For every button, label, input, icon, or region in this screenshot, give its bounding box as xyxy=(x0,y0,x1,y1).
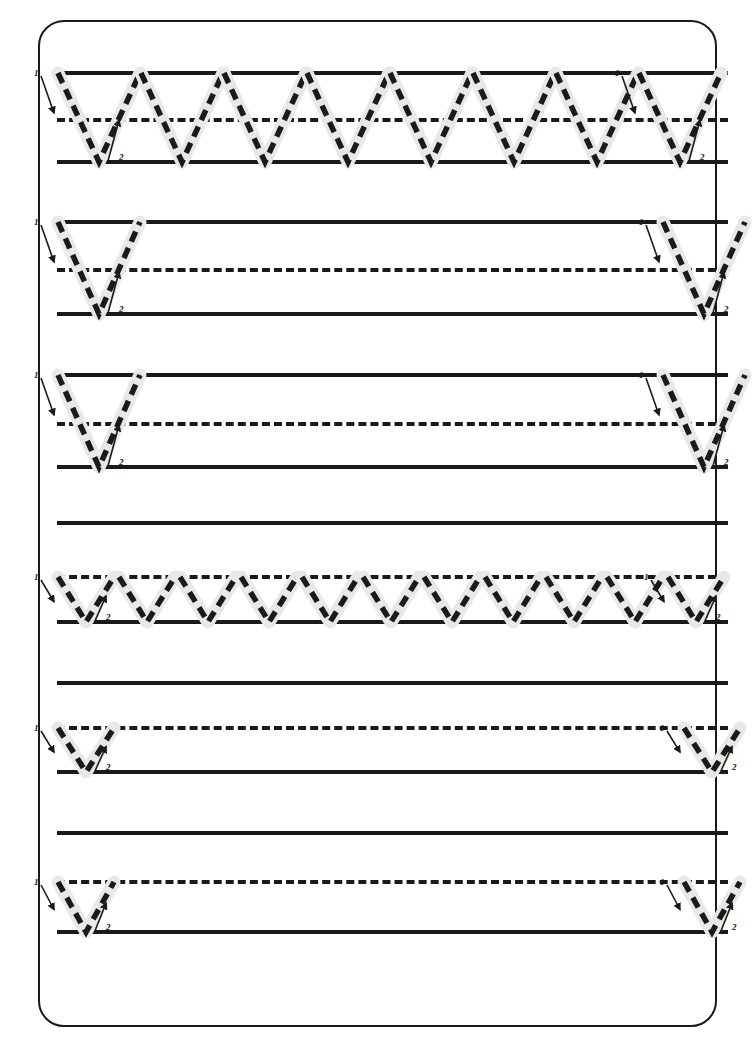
stroke-2-label: 2 xyxy=(716,613,721,622)
letter-highlight-band xyxy=(663,375,745,467)
stroke-1-label: 1 xyxy=(639,218,644,227)
stroke-1-arrow xyxy=(667,731,680,752)
letter-glyph-guided: 12 xyxy=(613,57,747,178)
letter-v-strokes xyxy=(32,359,166,483)
letter-v-strokes xyxy=(32,712,140,788)
stroke-2-label: 2 xyxy=(119,305,124,314)
section-3-separator-line xyxy=(57,521,728,525)
letter-glyph-guided: 12 xyxy=(642,561,750,638)
stroke-1-arrow xyxy=(646,378,659,415)
stroke-1-label: 1 xyxy=(34,878,39,887)
letter-glyph-guided: 12 xyxy=(32,866,140,948)
stroke-1-arrow xyxy=(41,76,54,113)
stroke-1-label: 1 xyxy=(615,69,620,78)
stroke-1-label: 1 xyxy=(644,573,649,582)
stroke-2-label: 2 xyxy=(732,763,737,772)
letter-highlight-band xyxy=(58,375,140,467)
section-6-base-line xyxy=(57,930,728,934)
letter-v-strokes xyxy=(642,561,750,638)
letter-glyph-guided: 12 xyxy=(32,359,166,483)
letter-highlight-band xyxy=(58,222,140,314)
stroke-2-label: 2 xyxy=(700,153,705,162)
letter-v-strokes xyxy=(658,866,756,948)
letter-glyph-guided: 12 xyxy=(658,866,756,948)
stroke-1-label: 1 xyxy=(34,371,39,380)
stroke-2-label: 2 xyxy=(106,923,111,932)
letter-highlight-band xyxy=(663,222,745,314)
stroke-1-label: 1 xyxy=(34,69,39,78)
letter-v-strokes xyxy=(637,359,756,483)
letter-v-strokes xyxy=(32,866,140,948)
stroke-1-label: 1 xyxy=(34,573,39,582)
stroke-1-arrow xyxy=(41,731,54,752)
section-5-separator-line xyxy=(57,831,728,835)
letter-v-strokes xyxy=(637,206,756,330)
stroke-1-arrow xyxy=(41,580,54,602)
stroke-2-label: 2 xyxy=(106,763,111,772)
section-5-base-line xyxy=(57,770,728,774)
stroke-2-label: 2 xyxy=(732,923,737,932)
letter-highlight-band xyxy=(639,73,721,162)
stroke-1-arrow xyxy=(41,378,54,415)
section-5-mid-line xyxy=(57,726,728,730)
stroke-1-arrow xyxy=(646,225,659,262)
stroke-1-label: 1 xyxy=(660,724,665,733)
stroke-2-label: 2 xyxy=(724,305,729,314)
stroke-2-label: 2 xyxy=(119,458,124,467)
letter-v-strokes xyxy=(658,712,756,788)
stroke-1-arrow xyxy=(622,76,635,113)
letter-glyph-guided: 12 xyxy=(32,712,140,788)
letter-glyph-guided: 12 xyxy=(637,359,756,483)
stroke-2-label: 2 xyxy=(724,458,729,467)
section-6-mid-line xyxy=(57,880,728,884)
letter-glyph-guided: 12 xyxy=(658,712,756,788)
stroke-1-arrow xyxy=(41,225,54,262)
letter-v-strokes xyxy=(32,206,166,330)
stroke-1-label: 1 xyxy=(34,218,39,227)
stroke-1-arrow xyxy=(41,885,54,910)
stroke-1-label: 1 xyxy=(34,724,39,733)
letter-glyph-guided: 12 xyxy=(637,206,756,330)
stroke-1-label: 1 xyxy=(639,371,644,380)
letter-v-strokes xyxy=(613,57,747,178)
stroke-1-arrow xyxy=(667,885,680,910)
letter-glyph-guided: 12 xyxy=(32,206,166,330)
section-4-separator-line xyxy=(57,681,728,685)
stroke-1-label: 1 xyxy=(660,878,665,887)
stroke-1-arrow xyxy=(651,580,664,602)
